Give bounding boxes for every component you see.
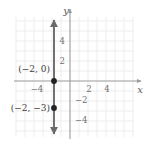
y-tick-label-2: 2 xyxy=(60,56,65,66)
x-axis-label: x xyxy=(137,84,143,95)
x-tick-label-2: 2 xyxy=(86,84,91,94)
y-tick-label-neg4: −4 xyxy=(75,115,88,125)
x-tick-label-4: 4 xyxy=(104,84,109,94)
graph-svg: y x −4 2 4 4 2 −2 −4 (−2, 0) (−2, −3) xyxy=(0,0,148,142)
x-tick-label-neg4: −4 xyxy=(31,84,44,94)
y-axis-label: y xyxy=(62,5,69,16)
y-tick-label-4: 4 xyxy=(60,36,65,46)
y-tick-label-neg2: −2 xyxy=(75,95,88,105)
point-a-label: (−2, 0) xyxy=(18,64,50,74)
point-a-marker xyxy=(51,78,57,84)
point-b-label: (−2, −3) xyxy=(11,103,50,113)
point-b-marker xyxy=(51,105,57,111)
coordinate-plane-figure: y x −4 2 4 4 2 −2 −4 (−2, 0) (−2, −3) xyxy=(0,0,148,142)
